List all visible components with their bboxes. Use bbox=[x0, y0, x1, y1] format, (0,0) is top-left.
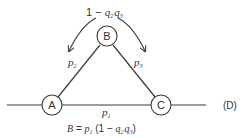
arrow-right-icon bbox=[118, 18, 145, 51]
node-b: B bbox=[97, 26, 117, 46]
arrow-left-icon bbox=[69, 18, 96, 51]
edge-b-c bbox=[113, 45, 155, 97]
edge-label-p2: p2 bbox=[67, 56, 77, 69]
node-c: C bbox=[151, 95, 171, 115]
edge-label-p3: p3 bbox=[133, 56, 143, 69]
figure-tag: (D) bbox=[223, 100, 237, 111]
node-a-label: A bbox=[48, 99, 56, 111]
node-a: A bbox=[42, 95, 62, 115]
node-c-label: C bbox=[157, 99, 165, 111]
edge-a-b bbox=[58, 45, 100, 97]
node-b-label: B bbox=[103, 30, 110, 42]
edge-label-p1: p1 bbox=[101, 106, 111, 119]
top-label: 1 − q2q3 bbox=[86, 6, 123, 19]
network-diagram: A B C 1 − q2q3 p2 p3 p1 (D) B = p1 (1 − … bbox=[0, 0, 248, 138]
formula: B = p1 (1 − q2q3) bbox=[67, 123, 136, 135]
